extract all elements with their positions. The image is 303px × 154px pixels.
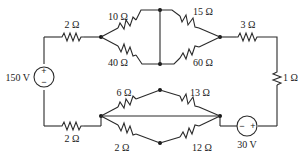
svg-text:10 Ω: 10 Ω: [108, 11, 128, 22]
svg-text:2 Ω: 2 Ω: [65, 19, 80, 30]
resistor-2ohm-top: 2 Ω: [60, 19, 101, 41]
svg-text:2 Ω: 2 Ω: [65, 133, 80, 144]
svg-text:3 Ω: 3 Ω: [241, 19, 256, 30]
upper-network: 10 Ω 40 Ω 15 Ω 60 Ω: [99, 6, 222, 68]
svg-text:40 Ω: 40 Ω: [108, 57, 128, 68]
source-30v-label: 30 V: [237, 139, 257, 150]
source-150v: + − 150 V: [5, 66, 54, 87]
svg-text:12 Ω: 12 Ω: [192, 142, 212, 153]
minus-sign: −: [41, 77, 46, 87]
svg-text:1 Ω: 1 Ω: [283, 72, 298, 83]
svg-text:6 Ω: 6 Ω: [117, 87, 132, 98]
plus-sign: +: [41, 66, 46, 76]
lower-network: 6 Ω 2 Ω 13 Ω 12 Ω: [99, 87, 222, 153]
circuit-diagram: + − 150 V 2 Ω 10 Ω 40 Ω 15 Ω 60 Ω: [0, 0, 303, 154]
resistor-1ohm: 1 Ω: [273, 70, 298, 126]
svg-text:60 Ω: 60 Ω: [193, 57, 213, 68]
minus-sign: −: [239, 121, 244, 131]
plus-sign: +: [250, 121, 255, 131]
svg-text:15 Ω: 15 Ω: [193, 6, 213, 17]
resistor-3ohm: 3 Ω: [220, 19, 277, 70]
source-30v: − + 30 V: [220, 116, 277, 150]
svg-text:13 Ω: 13 Ω: [190, 87, 210, 98]
svg-text:2 Ω: 2 Ω: [115, 142, 130, 153]
resistor-2ohm-bottom: 2 Ω: [60, 122, 101, 144]
source-150v-label: 150 V: [5, 72, 30, 83]
